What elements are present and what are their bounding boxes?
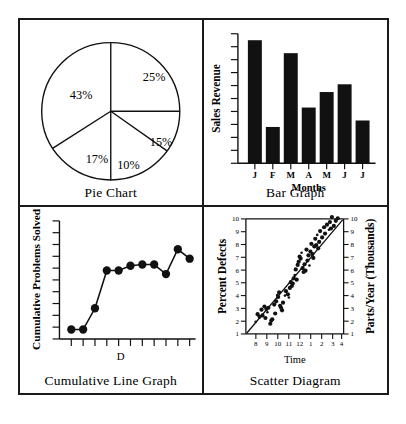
bar-series [247,40,369,163]
scatter-point-38 [302,262,306,266]
scatter-xtick-5: 1 [308,339,312,347]
scatter-point-49 [315,233,318,236]
scatter-y2tick-0: 1 [350,330,354,338]
scatter-ytick-8: 9 [235,228,239,236]
bar-6 [355,120,369,163]
line-point-0 [67,325,75,333]
line-graph-graphic: D Cumulative Problems Solved [20,207,202,394]
scatter-point-3 [259,307,263,311]
panel-caption-bar: Bar Graph [204,185,388,201]
scatter-point-30 [294,277,298,281]
scatter-y2tick-6: 7 [350,253,354,261]
scatter-ytick-0: 1 [235,330,239,338]
scatter-xtick-7: 3 [330,339,334,347]
scatter-y2tick-4: 5 [350,279,354,287]
scatter-point-11 [270,317,274,321]
line-point-8 [162,269,170,277]
line-series-markers [67,245,194,334]
bar-xtick-6: J [360,170,365,180]
bar-xtick-1: F [270,170,275,180]
scatter-ytick-3: 4 [235,292,239,300]
panel-grid: 25% 15% 10% 17% 43% Pie Chart [20,20,387,393]
scatter-point-16 [277,290,281,294]
bar-0 [247,40,261,163]
scatter-point-15 [276,294,280,298]
scatter-x-axis-label: Time [283,353,305,364]
bar-1 [265,127,279,163]
line-point-3 [103,266,111,274]
scatter-xtick-2: 10 [274,339,281,347]
scatter-x-tick-labels: 8 9 10 11 12 1 2 3 4 [254,339,344,347]
panel-caption-pie: Pie Chart [20,185,202,201]
bar-xtick-5: J [342,170,347,180]
bar-2 [283,53,297,163]
scatter-point-29 [293,267,297,271]
scatter-point-57 [327,220,331,224]
bar-4 [319,92,333,163]
line-point-5 [126,261,134,269]
scatter-point-19 [279,308,283,312]
scatter-ytick-2: 3 [235,304,239,312]
scatter-y2-axis-label: Parts/Year (Thousands) [363,218,376,333]
scatter-point-34 [298,256,302,260]
line-x-ticks [71,338,189,345]
scatter-point-47 [313,236,317,240]
line-point-1 [79,325,87,333]
scatter-ytick-7: 8 [235,240,239,248]
line-point-9 [174,245,182,253]
scatter-ytick-6: 7 [235,253,239,261]
scatter-point-41 [306,253,310,257]
bar-5 [337,84,351,163]
line-x-axis-label: D [117,349,125,361]
scatter-point-52 [320,235,324,239]
scatter-point-28 [293,273,296,276]
bar-xtick-3: A [305,170,312,180]
scatter-point-66 [264,306,268,310]
scatter-point-35 [300,251,303,254]
scatter-y2tick-3: 4 [350,292,354,300]
scatter-xtick-8: 4 [339,339,343,347]
bar-graph-graphic: J F M A M J J Months Sales Revenue [204,20,388,205]
scatter-point-65 [316,246,320,250]
pie-label-2: 10% [117,158,140,172]
panel-caption-scatter: Scatter Diagram [204,373,388,389]
scatter-point-67 [290,281,294,285]
scatter-y2-ticks [343,218,348,333]
scatter-points [254,214,339,325]
scatter-y2tick-8: 9 [350,228,354,236]
bar-x-ticks [254,163,362,169]
panel-pie-chart: 25% 15% 10% 17% 43% Pie Chart [20,20,204,207]
scatter-point-62 [273,311,277,315]
scatter-y2tick-7: 8 [350,240,354,248]
scatter-y2tick-9: 10 [350,215,357,223]
scatter-point-63 [287,296,290,299]
scatter-point-45 [310,251,314,255]
pie-label-4: 43% [70,88,93,102]
scatter-y2tick-2: 3 [350,304,354,312]
scatter-point-50 [317,239,321,243]
scatter-y2tick-5: 6 [350,266,354,274]
scatter-point-23 [285,292,289,296]
bar-xtick-0: J [252,170,257,180]
scatter-point-69 [328,226,332,230]
bar-x-tick-labels: J F M A M J J [252,170,365,180]
scatter-point-0 [254,320,257,323]
scatter-x-ticks [255,333,341,338]
scatter-y-tick-labels: 1 2 3 4 5 6 7 8 9 10 [231,215,238,338]
scatter-ytick-5: 6 [235,266,239,274]
line-y-axis-label: Cumulative Problems Solved [30,208,42,350]
bar-xtick-4: M [322,170,331,180]
bar-3 [301,108,315,164]
scatter-diagram-graphic: 1 2 3 4 5 6 7 8 9 10 [204,207,388,394]
scatter-y2tick-1: 2 [350,317,354,325]
scatter-xtick-0: 8 [254,339,258,347]
pie-label-3: 17% [86,152,109,166]
scatter-y-axis-label: Percent Defects [215,238,227,314]
bar-y-axis-label: Sales Revenue [209,64,221,133]
scatter-xtick-3: 11 [285,339,292,347]
scatter-point-68 [311,255,315,259]
line-series-path [71,249,189,329]
panel-bar-graph: J F M A M J J Months Sales Revenue Bar G… [204,20,388,207]
scatter-xtick-1: 9 [265,339,269,347]
scatter-xtick-6: 2 [319,339,323,347]
